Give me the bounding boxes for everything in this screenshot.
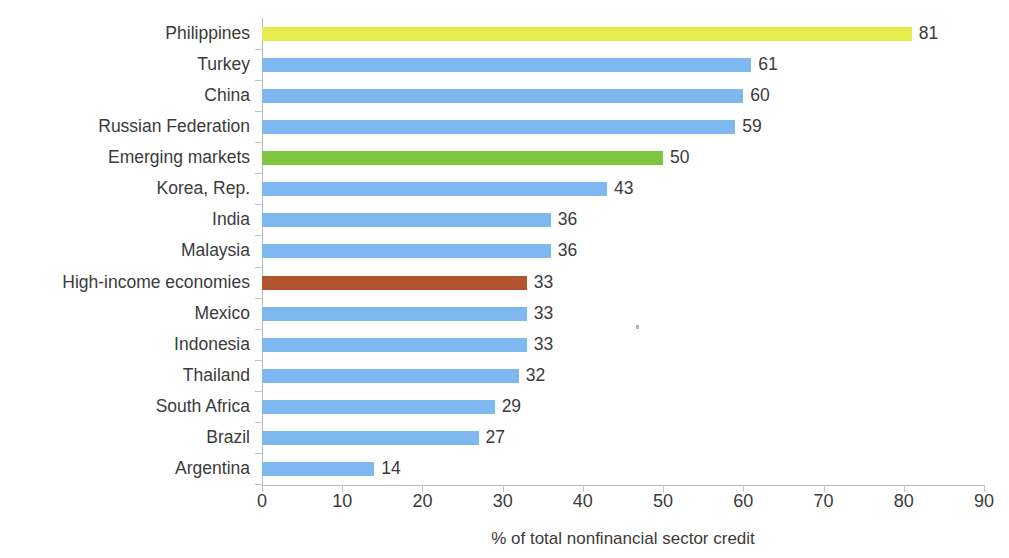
category-label: Thailand bbox=[183, 367, 250, 385]
category-label: Korea, Rep. bbox=[157, 180, 250, 198]
bar-row: China60 bbox=[262, 80, 984, 111]
category-axis-tick bbox=[255, 329, 262, 330]
bar-value-label: 14 bbox=[381, 461, 400, 479]
category-label: China bbox=[204, 87, 250, 105]
category-axis-tick bbox=[255, 142, 262, 143]
bar-row: Philippines81 bbox=[262, 18, 984, 49]
category-axis-tick bbox=[255, 173, 262, 174]
category-label: Brazil bbox=[206, 430, 250, 448]
bar-value-label: 33 bbox=[534, 336, 553, 354]
x-axis-title: % of total nonfinancial sector credit bbox=[262, 529, 984, 549]
category-label: High-income economies bbox=[62, 274, 250, 292]
category-axis-tick bbox=[255, 49, 262, 50]
category-axis-tick bbox=[255, 453, 262, 454]
category-axis-tick bbox=[255, 484, 262, 485]
bar bbox=[262, 431, 479, 445]
category-axis-tick bbox=[255, 80, 262, 81]
category-label: Russian Federation bbox=[98, 118, 250, 136]
bar-value-label: 59 bbox=[742, 118, 761, 136]
value-axis-tick-label: 70 bbox=[814, 492, 834, 510]
value-axis-tick-label: 0 bbox=[257, 492, 267, 510]
bar bbox=[262, 307, 527, 321]
category-axis-tick bbox=[255, 298, 262, 299]
category-axis-tick bbox=[255, 422, 262, 423]
category-label: Emerging markets bbox=[108, 149, 250, 167]
bar-value-label: 81 bbox=[919, 25, 938, 43]
category-label: Philippines bbox=[165, 25, 250, 43]
bar bbox=[262, 182, 607, 196]
plot-area: Philippines81Turkey61China60Russian Fede… bbox=[262, 18, 984, 485]
bar-value-label: 29 bbox=[502, 398, 521, 416]
bar-row: India36 bbox=[262, 205, 984, 236]
bar-value-label: 33 bbox=[534, 305, 553, 323]
category-label: South Africa bbox=[156, 398, 250, 416]
bar-row: Thailand32 bbox=[262, 360, 984, 391]
bar-row: Mexico33 bbox=[262, 298, 984, 329]
category-label: Indonesia bbox=[174, 336, 250, 354]
bar-chart: Philippines81Turkey61China60Russian Fede… bbox=[0, 0, 1009, 558]
value-axis-tick-label: 30 bbox=[493, 492, 513, 510]
bar-value-label: 61 bbox=[758, 56, 777, 74]
bar-row: South Africa29 bbox=[262, 392, 984, 423]
bar-value-label: 50 bbox=[670, 149, 689, 167]
bar bbox=[262, 400, 495, 414]
scan-artifact-dot bbox=[636, 325, 639, 329]
bar-value-label: 32 bbox=[526, 367, 545, 385]
bar bbox=[262, 151, 663, 165]
bar-row: Argentina14 bbox=[262, 454, 984, 485]
bar-row: Russian Federation59 bbox=[262, 111, 984, 142]
value-axis-tick-label: 90 bbox=[974, 492, 994, 510]
value-axis-tick-label: 60 bbox=[733, 492, 753, 510]
category-label: Argentina bbox=[175, 461, 250, 479]
bar bbox=[262, 58, 751, 72]
bar-row: Malaysia36 bbox=[262, 236, 984, 267]
category-label: Turkey bbox=[197, 56, 250, 74]
bar-value-label: 27 bbox=[486, 430, 505, 448]
value-axis-line bbox=[262, 485, 984, 486]
bar bbox=[262, 338, 527, 352]
category-axis-tick bbox=[255, 111, 262, 112]
category-axis-tick bbox=[255, 235, 262, 236]
category-label: Mexico bbox=[195, 305, 250, 323]
category-label: India bbox=[212, 212, 250, 230]
bar-row: Korea, Rep.43 bbox=[262, 174, 984, 205]
bar-row: Turkey61 bbox=[262, 49, 984, 80]
category-axis-tick bbox=[255, 267, 262, 268]
bar-row: Emerging markets50 bbox=[262, 143, 984, 174]
bar bbox=[262, 244, 551, 258]
category-axis-tick bbox=[255, 391, 262, 392]
category-axis-tick bbox=[255, 360, 262, 361]
value-axis-tick-label: 10 bbox=[332, 492, 352, 510]
bar bbox=[262, 369, 519, 383]
bar-value-label: 43 bbox=[614, 180, 633, 198]
value-axis-tick-label: 80 bbox=[894, 492, 914, 510]
bar bbox=[262, 120, 735, 134]
category-axis-tick bbox=[255, 204, 262, 205]
bar bbox=[262, 213, 551, 227]
category-label: Malaysia bbox=[181, 243, 250, 261]
bar bbox=[262, 462, 374, 476]
value-axis-tick-label: 20 bbox=[412, 492, 432, 510]
bar bbox=[262, 276, 527, 290]
bar-row: Brazil27 bbox=[262, 423, 984, 454]
bar-value-label: 33 bbox=[534, 274, 553, 292]
bar-value-label: 36 bbox=[558, 243, 577, 261]
value-axis-tick-label: 40 bbox=[573, 492, 593, 510]
bar-value-label: 60 bbox=[750, 87, 769, 105]
bar-row: High-income economies33 bbox=[262, 267, 984, 298]
bar bbox=[262, 27, 912, 41]
bar-value-label: 36 bbox=[558, 212, 577, 230]
value-axis-tick-label: 50 bbox=[653, 492, 673, 510]
bar-row: Indonesia33 bbox=[262, 329, 984, 360]
bar bbox=[262, 89, 743, 103]
